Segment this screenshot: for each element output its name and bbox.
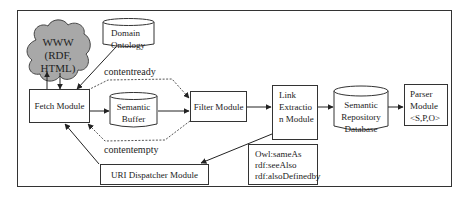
fetch-module: Fetch Module bbox=[29, 89, 90, 123]
parser-module-line3: <S,P,O> bbox=[410, 112, 447, 124]
owl-note-line2: rdf:seeAlso bbox=[255, 160, 317, 171]
filter-module-label: Filter Module bbox=[194, 101, 244, 113]
www-line1: WWW bbox=[32, 36, 84, 49]
semantic-buffer-line2: Buffer bbox=[110, 113, 157, 125]
fetch-module-label: Fetch Module bbox=[34, 100, 84, 112]
domain-ontology-line2: Ontology bbox=[111, 39, 157, 51]
owl-note-line1: Owl:sameAs bbox=[255, 149, 317, 160]
contentempty-label: contentempty bbox=[104, 144, 158, 155]
uri-dispatcher-module: URI Dispatcher Module bbox=[100, 164, 209, 185]
owl-note-line3: rdf:alsoDefinedby bbox=[255, 171, 317, 182]
semantic-buffer-line1: Semantic bbox=[110, 101, 157, 113]
uri-dispatcher-label: URI Dispatcher Module bbox=[111, 169, 198, 181]
link-extraction-line3: n Module bbox=[279, 113, 317, 125]
www-node: WWW (RDF, HTML) bbox=[32, 36, 84, 75]
parser-module-line2: Module bbox=[410, 100, 447, 112]
filter-module: Filter Module bbox=[190, 91, 247, 122]
contentready-label: contentready bbox=[104, 66, 156, 77]
parser-module-line1: Parser bbox=[410, 88, 447, 100]
semantic-repository-line3: Database bbox=[334, 123, 388, 135]
semantic-repository-line1: Semantic bbox=[334, 99, 388, 111]
semantic-buffer-node: Semantic Buffer bbox=[110, 101, 157, 125]
www-line3: HTML) bbox=[32, 62, 84, 75]
semantic-repository-line2: Repository bbox=[334, 111, 388, 123]
domain-ontology-line1: Domain bbox=[111, 27, 157, 39]
link-extraction-line2: Extractio bbox=[279, 101, 317, 113]
www-line2: (RDF, bbox=[32, 49, 84, 62]
domain-ontology-node: Domain Ontology bbox=[103, 27, 157, 51]
link-extraction-line1: Link bbox=[279, 89, 317, 101]
semantic-repository-node: Semantic Repository Database bbox=[334, 99, 388, 135]
link-extraction-module: Link Extractio n Module bbox=[272, 85, 318, 140]
parser-module: Parser Module <S,P,O> bbox=[404, 84, 448, 126]
owl-properties-note: Owl:sameAs rdf:seeAlso rdf:alsoDefinedby bbox=[248, 144, 318, 185]
